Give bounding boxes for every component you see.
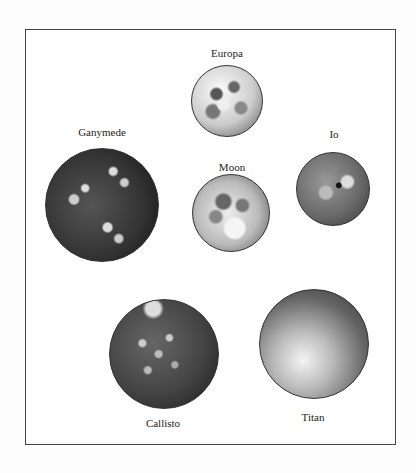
- moon-titan: [259, 289, 369, 399]
- moon-callisto: [109, 299, 219, 409]
- label-moon: Moon: [219, 161, 245, 173]
- label-titan: Titan: [302, 411, 325, 423]
- label-callisto: Callisto: [146, 417, 180, 429]
- label-io: Io: [329, 128, 338, 140]
- moon-ganymede: [45, 148, 159, 262]
- moon-io: [296, 152, 370, 226]
- moon-europa: [191, 65, 263, 137]
- moon-earth-moon: [192, 174, 270, 252]
- label-europa: Europa: [211, 47, 243, 59]
- label-ganymede: Ganymede: [78, 126, 126, 138]
